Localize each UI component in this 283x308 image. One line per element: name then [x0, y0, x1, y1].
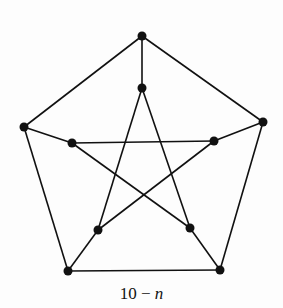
edge-i3-i5	[72, 143, 190, 228]
vertex-o4	[64, 267, 73, 276]
edge-o3-o4	[68, 270, 220, 271]
vertex-i2	[210, 137, 219, 146]
vertex-i1	[138, 84, 147, 93]
edge-o5-o1	[24, 36, 142, 127]
vertex-o3	[216, 266, 225, 275]
vertex-i4	[94, 226, 103, 235]
vertex-o5	[20, 123, 29, 132]
edge-i2-i4	[98, 141, 214, 230]
edge-o1-o2	[142, 36, 263, 122]
vertex-i3	[186, 224, 195, 233]
vertex-o1	[138, 32, 147, 41]
graph-canvas	[0, 0, 283, 308]
edge-o2-o3	[220, 122, 263, 270]
edge-o4-i4	[68, 230, 98, 271]
edge-i1-i3	[142, 88, 190, 228]
edge-o5-i5	[24, 127, 72, 143]
vertex-i5	[68, 139, 77, 148]
vertex-o2	[259, 118, 268, 127]
edge-o2-i2	[214, 122, 263, 141]
caption-number: 10 −	[120, 284, 155, 303]
edge-i5-i2	[72, 141, 214, 143]
petersen-graph-figure: 10 − n	[0, 0, 283, 308]
edge-o4-o5	[24, 127, 68, 271]
caption-variable: n	[155, 284, 164, 303]
edge-o3-i3	[190, 228, 220, 270]
edge-i4-i1	[98, 88, 142, 230]
figure-caption: 10 − n	[0, 284, 283, 304]
